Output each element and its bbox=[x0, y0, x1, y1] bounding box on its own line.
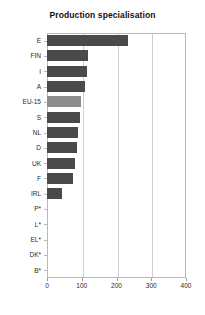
bar-i bbox=[47, 66, 87, 77]
x-tick-mark bbox=[117, 278, 118, 281]
bar-row bbox=[47, 110, 80, 125]
y-tick-label: D bbox=[0, 140, 44, 155]
y-tick-mark bbox=[44, 178, 47, 179]
y-axis-labels: EFINIAEU-15SNLDUKFIRLP*L*EL*DK*B* bbox=[0, 33, 44, 278]
bars-layer bbox=[47, 33, 186, 278]
bar-row bbox=[47, 48, 88, 63]
bar-row bbox=[47, 33, 128, 48]
y-tick-mark bbox=[44, 163, 47, 164]
bar-row bbox=[47, 186, 62, 201]
y-tick-label: E bbox=[0, 33, 44, 48]
production-specialisation-chart: Production specialisation EFINIAEU-15SNL… bbox=[0, 0, 205, 315]
x-tick-mark bbox=[47, 278, 48, 281]
bar-eu-15 bbox=[47, 96, 81, 107]
y-tick-label: P* bbox=[0, 201, 44, 216]
y-tick-label: A bbox=[0, 79, 44, 94]
y-tick-mark bbox=[44, 209, 47, 210]
x-tick-mark bbox=[151, 278, 152, 281]
y-tick-label: IRL bbox=[0, 186, 44, 201]
y-tick-mark bbox=[44, 117, 47, 118]
x-tick-label: 100 bbox=[76, 282, 87, 289]
y-tick-mark bbox=[44, 133, 47, 134]
y-tick-label: EU-15 bbox=[0, 94, 44, 109]
y-tick-mark bbox=[44, 224, 47, 225]
y-tick-label: NL bbox=[0, 125, 44, 140]
bar-row bbox=[47, 94, 81, 109]
y-tick-mark bbox=[44, 56, 47, 57]
bar-fin bbox=[47, 50, 88, 61]
y-tick-mark bbox=[44, 270, 47, 271]
y-tick-mark bbox=[44, 148, 47, 149]
bar-e bbox=[47, 35, 128, 46]
x-tick-mark bbox=[186, 278, 187, 281]
x-tick-label: 200 bbox=[111, 282, 122, 289]
y-tick-mark bbox=[44, 71, 47, 72]
y-tick-label: L* bbox=[0, 217, 44, 232]
y-tick-mark bbox=[44, 102, 47, 103]
x-tick-mark bbox=[82, 278, 83, 281]
y-tick-label: S bbox=[0, 110, 44, 125]
y-tick-label: FIN bbox=[0, 48, 44, 63]
chart-title: Production specialisation bbox=[0, 10, 205, 20]
y-tick-mark bbox=[44, 194, 47, 195]
bar-f bbox=[47, 173, 73, 184]
bar-row bbox=[47, 156, 75, 171]
bar-row bbox=[47, 64, 87, 79]
y-tick-label: EL* bbox=[0, 232, 44, 247]
bar-a bbox=[47, 81, 85, 92]
y-tick-label: UK bbox=[0, 156, 44, 171]
y-tick-mark bbox=[44, 255, 47, 256]
x-tick-label: 0 bbox=[45, 282, 49, 289]
bar-nl bbox=[47, 127, 78, 138]
x-tick-label: 400 bbox=[181, 282, 192, 289]
bar-row bbox=[47, 125, 78, 140]
bar-uk bbox=[47, 158, 75, 169]
y-tick-label: B* bbox=[0, 263, 44, 278]
x-axis: 0100200300400 bbox=[0, 278, 205, 302]
bar-row bbox=[47, 171, 73, 186]
bar-d bbox=[47, 142, 77, 153]
y-tick-label: DK* bbox=[0, 247, 44, 262]
bar-row bbox=[47, 140, 77, 155]
bar-s bbox=[47, 112, 80, 123]
bar-row bbox=[47, 79, 85, 94]
y-tick-mark bbox=[44, 41, 47, 42]
y-tick-label: F bbox=[0, 171, 44, 186]
y-tick-mark bbox=[44, 87, 47, 88]
x-tick-label: 300 bbox=[146, 282, 157, 289]
y-tick-mark bbox=[44, 240, 47, 241]
bar-irl bbox=[47, 188, 62, 199]
y-tick-label: I bbox=[0, 64, 44, 79]
